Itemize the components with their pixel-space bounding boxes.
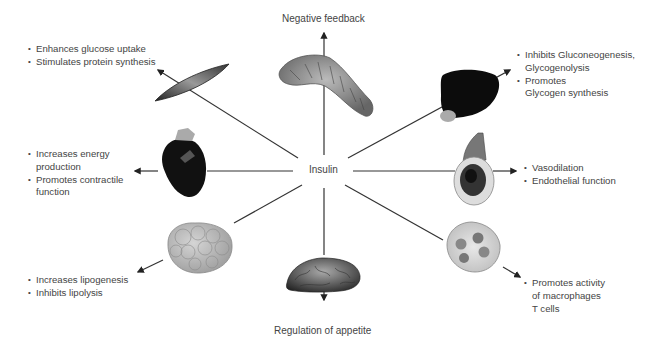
brain-icon bbox=[286, 258, 360, 292]
heart-effects: Increases energy production Promotes con… bbox=[28, 148, 123, 199]
muscle-effect-2: Stimulates protein synthesis bbox=[28, 56, 155, 69]
appetite-label: Regulation of appetite bbox=[274, 325, 371, 336]
liver-effect-1-cont: Glycogenolysis bbox=[517, 62, 635, 75]
adipose-effect-1: Increases lipogenesis bbox=[28, 274, 128, 287]
heart-icon bbox=[162, 128, 206, 197]
adipose-icon bbox=[168, 223, 232, 273]
vessel-effect-1: Vasodilation bbox=[524, 162, 616, 175]
vessel-effects: Vasodilation Endothelial function bbox=[524, 162, 616, 188]
pancreas-icon bbox=[279, 55, 373, 116]
liver-effects: Inhibits Gluconeogenesis, Glycogenolysis… bbox=[517, 49, 635, 100]
adipose-effect-2: Inhibits lipolysis bbox=[28, 287, 128, 300]
liver-effect-2-cont: Glycogen synthesis bbox=[517, 87, 635, 100]
heart-effect-2: Promotes contractile bbox=[28, 174, 123, 187]
heart-effect-2-cont: function bbox=[28, 186, 123, 199]
immune-cell-icon bbox=[447, 222, 500, 272]
liver-icon bbox=[440, 70, 499, 122]
vessel-effect-2: Endothelial function bbox=[524, 175, 616, 188]
blood-vessel-icon bbox=[454, 133, 494, 205]
heart-effect-1: Increases energy bbox=[28, 148, 123, 161]
muscle-effect-1: Enhances glucose uptake bbox=[28, 43, 155, 56]
liver-effect-1: Inhibits Gluconeogenesis, bbox=[517, 49, 635, 62]
muscle-icon bbox=[155, 64, 229, 101]
muscle-effects: Enhances glucose uptake Stimulates prote… bbox=[28, 43, 155, 69]
immune-effect-1: Promotes activity bbox=[524, 277, 605, 290]
immune-effect-1-cont2: T cells bbox=[524, 303, 605, 316]
heart-effect-1-cont: production bbox=[28, 161, 123, 174]
immune-effect-1-cont: of macrophages bbox=[524, 290, 605, 303]
line-immune-a bbox=[345, 185, 443, 240]
line-adipose-b bbox=[138, 260, 163, 272]
immune-effects: Promotes activity of macrophages T cells bbox=[524, 277, 605, 315]
negative-feedback-label: Negative feedback bbox=[282, 13, 365, 24]
line-adipose-a bbox=[234, 185, 302, 223]
liver-effect-2: Promotes bbox=[517, 75, 635, 88]
adipose-effects: Increases lipogenesis Inhibits lipolysis bbox=[28, 274, 128, 300]
line-immune-b bbox=[503, 267, 520, 277]
insulin-label: Insulin bbox=[309, 164, 338, 175]
